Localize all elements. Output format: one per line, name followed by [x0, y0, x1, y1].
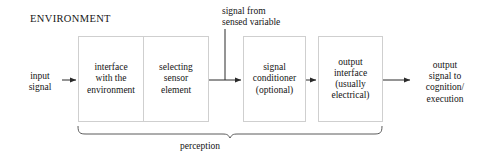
block-signal-conditioner[interactable]: signalconditioner(optional): [243, 36, 306, 122]
block-output-label: outputinterface(usuallyelectrical): [330, 57, 372, 102]
perception-brace: [78, 126, 382, 138]
block-sensor-label: selectingsensorelement: [157, 62, 195, 96]
block-interface-label: interfacewith theenvironment: [85, 62, 137, 96]
block-selecting-sensor-element[interactable]: selectingsensorelement: [143, 36, 209, 122]
block-conditioner-label: signalconditioner(optional): [251, 62, 298, 96]
block-output-interface[interactable]: outputinterface(usuallyelectrical): [318, 36, 383, 122]
block-interface-with-environment[interactable]: interfacewith theenvironment: [78, 36, 144, 122]
perception-label: perception: [180, 141, 220, 152]
input-signal-label: inputsignal: [16, 71, 64, 93]
sensor-block-diagram: ENVIRONMENT inputsignal signal fromsense…: [0, 0, 481, 167]
sensed-variable-label: signal fromsensed variable: [222, 6, 280, 28]
environment-label: ENVIRONMENT: [30, 13, 111, 24]
output-signal-label: outputsignal tocognition/execution: [414, 60, 476, 105]
